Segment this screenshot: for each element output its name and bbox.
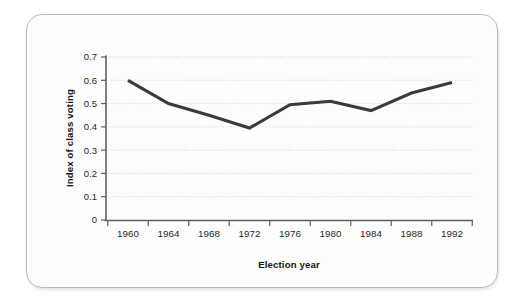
- y-tick-label: 0.6: [84, 75, 97, 86]
- x-tick-label: 1988: [401, 228, 423, 239]
- y-tick-labels-group: 00.10.20.30.40.50.60.7: [84, 51, 97, 225]
- y-tick-label: 0.4: [84, 121, 97, 132]
- figure-root: 00.10.20.30.40.50.60.7 19601964196819721…: [0, 0, 526, 305]
- gridlines-group: [106, 57, 473, 197]
- line-chart: 00.10.20.30.40.50.60.7 19601964196819721…: [0, 0, 526, 305]
- x-tick-label: 1964: [158, 228, 180, 239]
- x-tick-label: 1972: [239, 228, 261, 239]
- y-tick-label: 0.2: [84, 168, 97, 179]
- y-tick-label: 0.7: [84, 51, 97, 62]
- x-tick-label: 1976: [279, 228, 301, 239]
- x-tick-label: 1968: [198, 228, 220, 239]
- data-series-line: [128, 80, 452, 128]
- x-tick-label: 1960: [117, 228, 139, 239]
- y-tick-label: 0.1: [84, 191, 97, 202]
- x-tick-labels-group: 196019641968197219761980198419881992: [117, 228, 463, 239]
- y-tick-label: 0.3: [84, 145, 97, 156]
- x-tick-label: 1980: [320, 228, 342, 239]
- x-axis-title: Election year: [258, 259, 320, 270]
- x-tick-label: 1992: [441, 228, 463, 239]
- y-tick-label: 0.5: [84, 98, 97, 109]
- x-tick-label: 1984: [360, 228, 382, 239]
- y-tick-label: 0: [92, 214, 97, 225]
- y-axis-title: Index of class voting: [64, 89, 75, 187]
- chart-svg: 00.10.20.30.40.50.60.7 19601964196819721…: [0, 0, 526, 305]
